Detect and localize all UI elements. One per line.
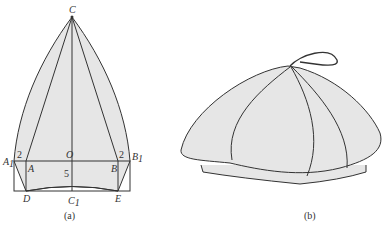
dim-right-offset: 2: [119, 149, 124, 160]
hat-crown: [181, 66, 381, 173]
label-e: E: [114, 193, 121, 204]
hat-loop: [290, 52, 337, 66]
label-c: C: [69, 4, 76, 15]
label-o: O: [66, 149, 73, 160]
label-a1: A1: [2, 156, 14, 169]
diagram-canvas: C O A1 B1 A B D E C1 2 2 5 (a) (b): [0, 0, 388, 235]
figure-b-hat: (b): [181, 52, 381, 222]
label-b1: B1: [132, 151, 143, 164]
caption-b: (b): [304, 210, 316, 222]
dim-left-offset: 2: [17, 149, 22, 160]
caption-a: (a): [64, 210, 75, 222]
figure-a-pattern: C O A1 B1 A B D E C1 2 2 5 (a): [2, 4, 143, 222]
label-b: B: [111, 163, 117, 174]
apex-point: [71, 16, 74, 19]
label-a: A: [27, 163, 35, 174]
label-d: D: [22, 193, 31, 204]
dim-height: 5: [64, 168, 69, 179]
label-c1: C1: [68, 195, 80, 208]
